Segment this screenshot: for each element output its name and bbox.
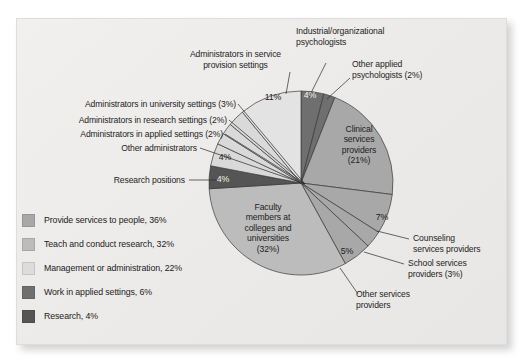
pct-other-services: 5% <box>336 246 358 256</box>
legend-label: Research, 4% <box>44 311 98 321</box>
leader-admin-service <box>286 72 290 94</box>
callout-other-applied: Other applied psychologists (2%) <box>352 59 482 80</box>
slice-label-faculty: Faculty members at colleges and universi… <box>223 202 313 254</box>
legend-swatch <box>22 262 35 275</box>
pct-io-psych: 4% <box>299 90 321 100</box>
slice-label-clinical: Clinical services providers (21%) <box>318 124 400 166</box>
legend-swatch <box>22 310 35 323</box>
legend-item[interactable]: Provide services to people, 36% <box>22 208 182 232</box>
callout-other-admin: Other administrators <box>40 143 197 154</box>
callout-counseling: Counseling services providers <box>413 233 523 254</box>
pct-research-positions: 4% <box>212 174 234 184</box>
leader-other-applied <box>327 78 350 99</box>
legend-label: Management or administration, 22% <box>44 263 182 273</box>
pct-counseling: 7% <box>371 212 393 222</box>
pct-admin-service: 11% <box>260 92 286 102</box>
callout-research-positions: Research positions <box>52 175 185 186</box>
leader-counseling <box>377 231 409 239</box>
callout-other-services: Other services providers <box>356 289 460 310</box>
chart-legend: Provide services to people, 36%Teach and… <box>22 208 182 328</box>
legend-item[interactable]: Management or administration, 22% <box>22 256 182 280</box>
callout-school-services: School services providers (3%) <box>408 258 514 279</box>
figure-container: Industrial/organizational psychologists … <box>0 0 529 363</box>
callout-admin-applied: Administrators in applied settings (2%) <box>24 129 223 140</box>
legend-item[interactable]: Teach and conduct research, 32% <box>22 232 182 256</box>
legend-item[interactable]: Research, 4% <box>22 304 182 328</box>
legend-item[interactable]: Work in applied settings, 6% <box>22 280 182 304</box>
legend-swatch <box>22 214 35 227</box>
pct-other-admin: 4% <box>214 152 236 162</box>
legend-label: Provide services to people, 36% <box>44 215 167 225</box>
callout-admin-service: Administrators in service provision sett… <box>168 49 303 70</box>
legend-swatch <box>22 286 35 299</box>
callout-admin-university: Administrators in university settings (3… <box>24 99 236 110</box>
legend-label: Work in applied settings, 6% <box>44 287 152 297</box>
callout-io-psych: Industrial/organizational psychologists <box>296 26 446 47</box>
legend-label: Teach and conduct research, 32% <box>44 239 174 249</box>
legend-swatch <box>22 238 35 251</box>
leader-school <box>364 252 404 264</box>
callout-admin-research: Administrators in research settings (2%) <box>24 115 227 126</box>
